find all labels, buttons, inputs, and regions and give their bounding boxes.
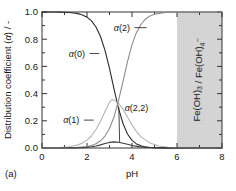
x-tick-label: 2 [84, 151, 89, 162]
x-tick-label: 8 [219, 151, 224, 162]
x-tick-label: 0 [39, 151, 44, 162]
y-axis-title: Distribution coefficient (α) / - [2, 21, 13, 139]
y-tick-label: 0.2 [25, 115, 38, 126]
figure-panel-a: 024680.00.20.40.60.81.0pHDistribution co… [0, 0, 236, 191]
curve-label: α(0) [69, 49, 85, 59]
figure-caption: (a) [5, 168, 17, 179]
y-tick-label: 0.4 [25, 88, 38, 99]
curve-label: α(2,2) [125, 103, 149, 113]
y-tick-label: 1.0 [25, 6, 38, 17]
curve-label: α(2) [114, 23, 130, 33]
y-tick-label: 0.0 [25, 142, 38, 153]
x-tick-label: 4 [129, 151, 134, 162]
y-tick-label: 0.8 [25, 34, 38, 45]
curve-label: α(1) [63, 115, 79, 125]
x-tick-label: 6 [174, 151, 179, 162]
distribution-coefficient-chart: 024680.00.20.40.60.81.0pHDistribution co… [0, 0, 236, 191]
y-tick-label: 0.6 [25, 61, 38, 72]
x-axis-title: pH [126, 168, 138, 179]
